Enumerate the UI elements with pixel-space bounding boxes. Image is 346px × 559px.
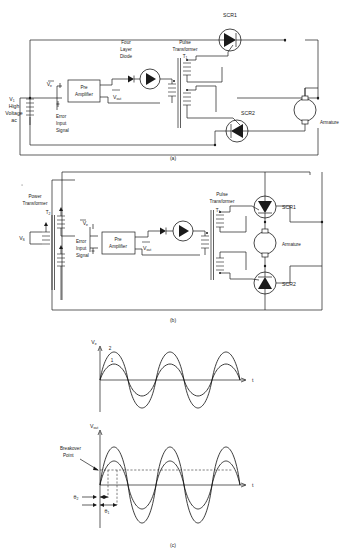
preamp-line1-b: Pre [114, 237, 122, 242]
caption-b: (b) [170, 317, 176, 323]
figure-root: V1 High Voltage ac Ve Error Input Signal… [0, 0, 346, 559]
source-line2: High [9, 103, 20, 109]
diagram-b: Power Transformer T2 VS [19, 172, 323, 323]
pt-line2-a: Transformer [173, 47, 198, 52]
breakover-line2: Point [63, 453, 74, 458]
chart-vout: Vout t Breakover Point θ2 [60, 423, 254, 528]
scr2-symbol-b [252, 268, 276, 310]
polarity-dot [173, 80, 175, 82]
scr1-label-b: SCR1 [282, 204, 296, 210]
scr2-label-b: SCR2 [282, 281, 296, 287]
ve-axis-label: Ve [91, 339, 96, 346]
theta2-marker: θ2 [74, 494, 108, 501]
curve-label-1: 1 [111, 358, 114, 363]
fld-line2-a: Layer [120, 47, 132, 52]
error-input-a [57, 83, 63, 110]
vs-label-b: VS [19, 235, 25, 242]
armature-b [254, 218, 276, 268]
pulse-transformer-b [201, 206, 252, 280]
pulse-transformer-a [168, 56, 222, 128]
node-dot [284, 39, 286, 41]
error-line2-b: Input [76, 246, 87, 251]
circuit-a-wires [20, 40, 318, 155]
circuit-b-wires [22, 172, 322, 310]
error-line2-a: Input [56, 121, 67, 126]
diagram-a: V1 High Voltage ac Ve Error Input Signal… [5, 12, 339, 161]
error-line3-a: Signal [56, 128, 69, 133]
pt-line1-b: Pulse [216, 192, 228, 197]
error-input-b [90, 224, 98, 252]
scr1-symbol-b [252, 172, 276, 218]
caption-a: (a) [170, 155, 176, 161]
scr1-label-a: SCR1 [223, 12, 237, 18]
armature-label-b: Armature [282, 242, 301, 247]
source-line4: ac [11, 117, 17, 123]
t-axis-label-ve: t [252, 377, 254, 383]
preamp-line2-b: Amplifier [109, 244, 127, 249]
pwrt-t2-b: T2 [46, 210, 51, 216]
power-transformer-b: VS [19, 207, 75, 300]
scr2-label-a: SCR2 [241, 110, 255, 116]
node-dot [264, 221, 266, 223]
unijunction-oscillator-b [173, 221, 205, 241]
node-dot [264, 265, 266, 267]
theta1-marker: θ1 [82, 503, 117, 515]
theta2-label: θ2 [74, 494, 79, 501]
armature-a [285, 88, 318, 131]
node-dot [214, 144, 216, 146]
node-dot [321, 221, 323, 223]
error-line1-a: Error [56, 114, 67, 119]
preamplifier-block-a [68, 80, 100, 102]
four-layer-diode-symbol-b [148, 228, 173, 235]
pwrt-line1-b: Power [28, 194, 41, 199]
node-dot [317, 97, 319, 99]
polarity-dot [206, 232, 208, 234]
theta1-label: θ1 [105, 508, 110, 515]
ve-label-b: Ve [83, 220, 88, 227]
vout-axis-label: Vout [90, 423, 98, 430]
pwrt-line2-b: Transformer [23, 201, 48, 206]
chart-ve: Ve t 2 1 [91, 339, 254, 412]
scr2-symbol-a [215, 118, 285, 145]
pt-line1-a: Pulse [179, 40, 191, 45]
preamp-line1-a: Pre [80, 85, 88, 90]
fld-line3-a: Diode [120, 54, 132, 59]
armature-label-a: Armature [320, 120, 339, 125]
fld-line1-a: Four [121, 40, 131, 45]
ve-label-a: Ve [47, 81, 52, 88]
curve-label-2: 2 [109, 346, 112, 351]
error-line3-b: Signal [76, 253, 89, 258]
caption-c: (c) [170, 542, 176, 548]
scr1-symbol-a [215, 29, 241, 56]
error-line1-b: Error [76, 239, 87, 244]
vout-label-a: Vout [113, 94, 121, 101]
t-axis-label-vout: t [252, 482, 254, 488]
pt-line2-b: Transformer [210, 199, 235, 204]
breakover-arrowhead [93, 467, 99, 471]
breakover-line1: Breakover [60, 446, 81, 451]
unijunction-oscillator-a [140, 69, 172, 89]
vout-label-b: Vout [143, 245, 151, 252]
node-dot [29, 97, 31, 99]
preamplifier-block-b [102, 232, 135, 254]
preamp-line2-a: Amplifier [75, 92, 93, 97]
waveforms-c: Ve t 2 1 Vout t Breakover Point [60, 339, 254, 548]
four-layer-diode-symbol-a [112, 76, 140, 83]
source-line3: Voltage [5, 110, 22, 116]
